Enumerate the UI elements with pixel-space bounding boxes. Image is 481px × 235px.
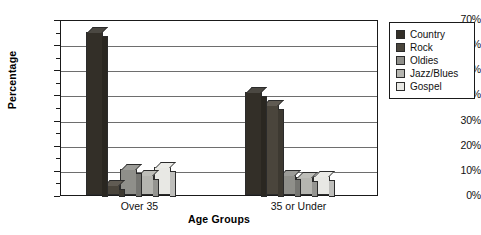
- legend-item-label: Oldies: [410, 55, 438, 66]
- legend-item-label: Jazz/Blues: [410, 68, 458, 79]
- bar-side-face: [261, 96, 267, 197]
- legend-item-label: Country: [410, 29, 445, 40]
- bar-top-face: [246, 87, 267, 93]
- bar-side-face: [153, 179, 159, 197]
- legend-item-country[interactable]: Country: [396, 28, 469, 41]
- bar-side-face: [312, 181, 318, 197]
- y-tick-label: 0%: [447, 190, 481, 200]
- y-axis-title: Percentage: [6, 32, 18, 128]
- legend-item-oldies[interactable]: Oldies: [396, 54, 469, 67]
- bar-side-face: [329, 180, 335, 197]
- bar-chart: Percentage 0%10%20%30%40%50%60%70% Over …: [0, 0, 481, 235]
- bar-top-face: [155, 162, 176, 168]
- legend-item-label: Gospel: [410, 81, 442, 92]
- bar-side-face: [119, 189, 125, 197]
- legend-swatch-icon: [396, 56, 405, 65]
- legend-item-rock[interactable]: Rock: [396, 41, 469, 54]
- legend-swatch-icon: [396, 43, 405, 52]
- y-tick-label: 10%: [447, 165, 481, 175]
- legend-item-label: Rock: [410, 42, 433, 53]
- gridline: [61, 147, 377, 148]
- bar-side-face: [295, 179, 301, 197]
- y-tick-major: [54, 196, 60, 197]
- legend-item-jazz-blues[interactable]: Jazz/Blues: [396, 67, 469, 80]
- x-axis-title: Age Groups: [60, 213, 378, 225]
- bar-country-over-35: [86, 32, 103, 195]
- bar-top-face: [87, 27, 108, 33]
- gridline: [61, 122, 377, 123]
- gridline: [61, 71, 377, 72]
- bar-side-face: [278, 109, 284, 198]
- y-tick-label: 30%: [447, 115, 481, 125]
- legend-item-gospel[interactable]: Gospel: [396, 80, 469, 93]
- x-tick-label: 35 or Under: [239, 200, 359, 212]
- legend: CountryRockOldiesJazz/BluesGospel: [389, 22, 475, 99]
- gridline: [61, 96, 377, 97]
- x-tick-label: Over 35: [80, 200, 200, 212]
- legend-swatch-icon: [396, 30, 405, 39]
- bar-side-face: [136, 173, 142, 197]
- bar-side-face: [102, 36, 108, 197]
- gridline: [61, 46, 377, 47]
- bar-country-35-or-under: [245, 92, 262, 195]
- y-tick-label: 20%: [447, 140, 481, 150]
- bar-side-face: [170, 171, 176, 197]
- legend-swatch-icon: [396, 69, 405, 78]
- plot-area: [60, 20, 378, 196]
- bar-top-face: [121, 164, 142, 170]
- legend-swatch-icon: [396, 82, 405, 91]
